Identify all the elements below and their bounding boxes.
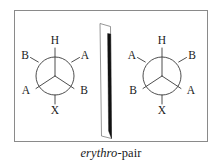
left-newman-projection: H B A A B X: [21, 34, 90, 116]
left-label-upper-right: A: [81, 49, 90, 61]
right-label-bottom: X: [158, 104, 167, 116]
left-front-bond-lower-right: [55, 76, 74, 89]
left-front-bond-lower-left: [36, 76, 55, 89]
left-back-bond-upper-left: [31, 58, 39, 63]
left-label-bottom: X: [51, 104, 60, 116]
caption-roman-part: -pair: [117, 146, 141, 160]
figure-scene: H B A A B X: [0, 0, 222, 165]
right-front-bond-lower-right: [162, 76, 181, 89]
caption-italic-part: erythro: [80, 146, 117, 160]
left-front-bonds: [36, 48, 74, 89]
right-label-upper-left: A: [128, 49, 137, 61]
right-front-bonds: [143, 48, 181, 89]
figure-caption: erythro-pair: [0, 146, 222, 161]
right-front-bond-lower-left: [143, 76, 162, 89]
right-label-upper-right: B: [188, 49, 196, 61]
right-newman-projection: H A B B A X: [128, 34, 196, 116]
right-back-bond-upper-left: [138, 58, 146, 63]
left-label-upper-left: B: [21, 49, 29, 61]
left-label-lower-left: A: [22, 84, 31, 96]
right-label-top: H: [158, 34, 166, 46]
erythro-pair-figure: H B A A B X: [0, 0, 222, 165]
left-label-lower-right: B: [80, 84, 88, 96]
right-label-lower-left: B: [129, 84, 137, 96]
left-label-top: H: [51, 34, 59, 46]
right-back-bond-upper-right: [179, 58, 187, 63]
right-label-lower-right: A: [187, 84, 196, 96]
mirror-plane: [100, 24, 112, 139]
left-back-bond-upper-right: [72, 58, 80, 63]
